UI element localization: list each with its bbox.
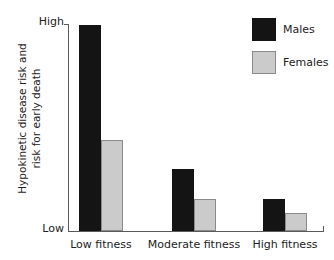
x-axis-label-high-fitness: High fitness: [225, 238, 334, 251]
legend-label-males: Males: [283, 23, 315, 36]
legend-swatch-females-icon: [252, 51, 276, 74]
chart-legend: Males Females: [252, 18, 334, 84]
bar-high-fitness-females: [285, 213, 307, 231]
y-tick-label-low: Low: [22, 222, 64, 235]
y-axis-label-line-1: Hypokinetic disease risk and: [16, 43, 28, 194]
legend-label-females: Females: [283, 56, 329, 69]
x-axis-line: [68, 231, 324, 232]
y-tick-label-high: High: [22, 15, 64, 28]
bar-moderate-fitness-females: [194, 199, 216, 231]
bar-low-fitness-males: [79, 25, 101, 231]
bar-low-fitness-females: [101, 140, 123, 231]
y-axis-label-line-2: risk for early death: [29, 43, 43, 194]
y-axis-label: Hypokinetic disease risk and risk for ea…: [6, 0, 52, 236]
legend-item-females[interactable]: Females: [252, 51, 334, 74]
bar-chart-figure: Hypokinetic disease risk and risk for ea…: [0, 0, 334, 260]
bar-moderate-fitness-males: [172, 169, 194, 231]
legend-item-males[interactable]: Males: [252, 18, 334, 41]
bar-high-fitness-males: [263, 199, 285, 231]
legend-swatch-males-icon: [252, 18, 276, 41]
